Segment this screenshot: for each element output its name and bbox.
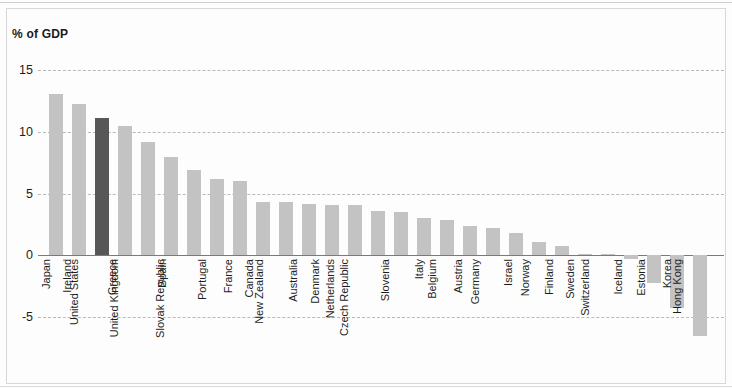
- bar[interactable]: [187, 170, 201, 255]
- bar-slot: [527, 64, 550, 348]
- bar-slot: [44, 64, 67, 348]
- bar[interactable]: [532, 242, 546, 256]
- x-tick-label: Slovak Republic: [154, 259, 165, 338]
- bar[interactable]: [233, 181, 247, 255]
- bar[interactable]: [256, 202, 270, 255]
- bar-slot: [596, 64, 619, 348]
- y-axis-title: % of GDP: [12, 27, 68, 41]
- figure-top-rule: [0, 2, 732, 3]
- bar-slot: [274, 64, 297, 348]
- bar[interactable]: [578, 254, 592, 256]
- bar[interactable]: [394, 212, 408, 255]
- bar[interactable]: [486, 228, 500, 255]
- x-tick-label: Portugal: [196, 259, 207, 300]
- x-tick-label: France: [222, 259, 233, 293]
- bar[interactable]: [279, 202, 293, 255]
- x-tick-label: Austria: [452, 259, 463, 293]
- y-tick-label: -5: [22, 310, 33, 324]
- bar[interactable]: [141, 142, 155, 256]
- x-tick-label: Japan: [41, 259, 52, 289]
- bar[interactable]: [302, 204, 316, 256]
- bar-slot: [389, 64, 412, 348]
- bar[interactable]: [348, 205, 362, 256]
- bar-slot: [366, 64, 389, 348]
- bar-slot: [412, 64, 435, 348]
- bar[interactable]: [72, 104, 86, 256]
- x-tick-label: Australia: [287, 259, 298, 302]
- bar-slot: [435, 64, 458, 348]
- bar-slot: [688, 64, 711, 348]
- bar[interactable]: [371, 211, 385, 255]
- bar[interactable]: [49, 94, 63, 256]
- x-tick-label: Netherlands: [325, 259, 336, 318]
- x-tick-label: Israel: [502, 259, 513, 286]
- bar-series: [38, 64, 724, 348]
- x-tick-label: Germany: [470, 259, 481, 304]
- y-tick-label: 15: [19, 63, 33, 77]
- x-tick-label: Slovenia: [379, 259, 390, 301]
- figure-bottom-rule: [0, 386, 732, 387]
- plot-area: 151050-5 JapanIrelandUnited StatesGreece…: [38, 64, 724, 348]
- x-tick-label: Czech Republic: [339, 259, 350, 336]
- x-tick-label: Estonia: [635, 259, 646, 296]
- bar[interactable]: [95, 118, 109, 255]
- bar-slot: [550, 64, 573, 348]
- bar-slot: [458, 64, 481, 348]
- x-tick-label: United Kingdom: [108, 259, 119, 337]
- bar[interactable]: [647, 255, 661, 282]
- bar-slot: [619, 64, 642, 348]
- x-tick-label: Iceland: [613, 259, 624, 294]
- bar[interactable]: [693, 255, 707, 335]
- bar-slot: [642, 64, 665, 348]
- bar[interactable]: [118, 126, 132, 256]
- x-tick-label: Hong Kong: [672, 259, 683, 314]
- x-tick-label: New Zealand: [253, 259, 264, 324]
- x-tick-label: Italy: [413, 259, 424, 279]
- bar[interactable]: [555, 246, 569, 256]
- x-tick-label: Finland: [543, 259, 554, 295]
- bar[interactable]: [463, 226, 477, 256]
- bar-slot: [297, 64, 320, 348]
- bar[interactable]: [509, 233, 523, 255]
- y-tick-label: 5: [26, 187, 33, 201]
- x-tick-label: United States: [68, 259, 79, 325]
- x-tick-label: Sweden: [565, 259, 576, 299]
- bar-slot: [182, 64, 205, 348]
- chart-figure: % of GDP 151050-5 JapanIrelandUnited Sta…: [0, 0, 732, 388]
- x-tick-label: Norway: [520, 259, 531, 296]
- bar[interactable]: [440, 220, 454, 256]
- y-tick-label: 0: [26, 248, 33, 262]
- y-tick-label: 10: [19, 125, 33, 139]
- bar[interactable]: [325, 205, 339, 256]
- x-tick-label: Denmark: [309, 259, 320, 304]
- bar[interactable]: [164, 157, 178, 256]
- bar-slot: [481, 64, 504, 348]
- x-tick-label: Belgium: [427, 259, 438, 299]
- bar-slot: [228, 64, 251, 348]
- bar[interactable]: [210, 179, 224, 256]
- bar[interactable]: [601, 254, 615, 255]
- bar[interactable]: [417, 218, 431, 255]
- bar-slot: [205, 64, 228, 348]
- x-tick-label: Switzerland: [579, 259, 590, 316]
- bar-slot: [504, 64, 527, 348]
